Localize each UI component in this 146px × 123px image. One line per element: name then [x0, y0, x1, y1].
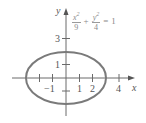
y-tick-label-1: 1: [55, 60, 60, 70]
y-axis-label: y: [56, 6, 60, 16]
x-tick-label-1: 1: [77, 84, 82, 94]
equation-rhs: 1: [111, 16, 116, 26]
x-tick-label-4: 4: [116, 84, 121, 94]
y-axis-arrow-icon: [64, 8, 69, 15]
x-tick-label-2: 2: [90, 84, 95, 94]
x-tick-label-neg1: −1: [44, 84, 55, 94]
equation-term-y: y2 4: [92, 11, 101, 32]
x-axis-label: x: [132, 83, 136, 93]
equation-term-x: x2 9: [72, 11, 81, 32]
equation-equals: =: [103, 16, 108, 26]
ellipse-equation: x2 9 + y2 4 = 1: [72, 11, 116, 32]
equation-plus: +: [84, 16, 89, 26]
y-tick-label-3: 3: [55, 34, 60, 44]
x-axis-arrow-icon: [128, 76, 135, 81]
